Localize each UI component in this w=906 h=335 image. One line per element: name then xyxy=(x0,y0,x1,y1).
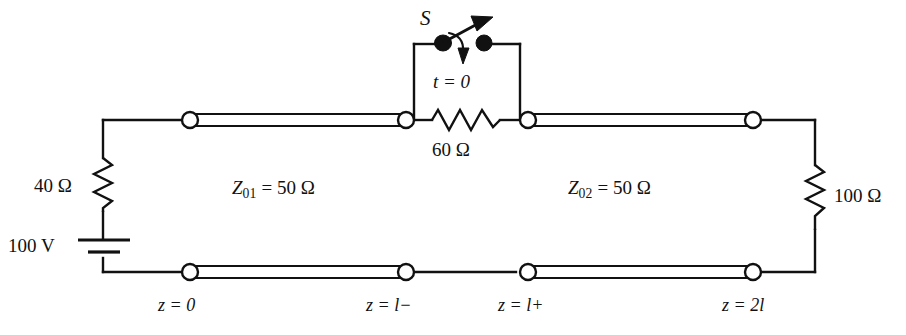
terminal-circle-lplus-bottom xyxy=(520,264,536,280)
terminal-circle-2l-top xyxy=(745,112,761,128)
terminal-circle-lplus-top xyxy=(520,112,536,128)
transmission-line-1-lower xyxy=(182,264,414,280)
label-z02-symbol: Z xyxy=(568,177,579,198)
terminal-circle-lminus-top xyxy=(398,112,414,128)
transmission-line-2-upper xyxy=(520,112,761,128)
label-line-1-impedance: Z01 = 50 Ω xyxy=(232,178,315,201)
label-z-start: z = 0 xyxy=(158,296,195,314)
terminal-circle-lminus-bottom xyxy=(398,264,414,280)
switch-motion-arrowhead xyxy=(458,48,469,64)
label-load-resistor-100-ohm: 100 Ω xyxy=(834,186,881,205)
label-switch-time: t = 0 xyxy=(433,72,470,91)
circuit-schematic-canvas xyxy=(0,0,906,335)
switch-blade-arrowhead xyxy=(471,16,493,31)
label-z-2l: z = 2l xyxy=(722,296,764,314)
switch-contact-right-dot xyxy=(476,35,492,51)
switch-S[interactable] xyxy=(435,16,494,64)
label-line-2-impedance: Z02 = 50 Ω xyxy=(568,178,651,201)
label-z02-equals: = xyxy=(597,177,608,198)
terminal-circle-2l-bottom xyxy=(745,264,761,280)
label-z02-subscript: 02 xyxy=(579,186,593,201)
label-z01-subscript: 01 xyxy=(243,186,257,201)
circuit-diagram-figure: 40 Ω 100 V 60 Ω S t = 0 100 Ω Z01 = 50 Ω… xyxy=(0,0,906,335)
resistor-40-ohm xyxy=(94,158,112,212)
resistor-100-ohm xyxy=(806,165,824,230)
label-z01-equals: = xyxy=(261,177,272,198)
label-switch-S: S xyxy=(420,8,431,29)
label-resistor-60-ohm: 60 Ω xyxy=(432,140,470,159)
terminal-circle-z0-bottom xyxy=(182,264,198,280)
battery-symbol xyxy=(78,240,130,252)
resistor-60-ohm xyxy=(432,110,500,130)
terminal-circle-z0-top xyxy=(182,112,198,128)
label-source-voltage: 100 V xyxy=(8,236,55,255)
label-z01-value: 50 Ω xyxy=(277,177,315,198)
label-z01-symbol: Z xyxy=(232,177,243,198)
label-z-l-minus: z = l− xyxy=(366,296,411,314)
label-resistor-40-ohm: 40 Ω xyxy=(34,176,72,195)
label-z-l-plus: z = l+ xyxy=(498,296,543,314)
label-z02-value: 50 Ω xyxy=(613,177,651,198)
transmission-line-2-lower xyxy=(520,264,761,280)
transmission-line-1-upper xyxy=(182,112,414,128)
